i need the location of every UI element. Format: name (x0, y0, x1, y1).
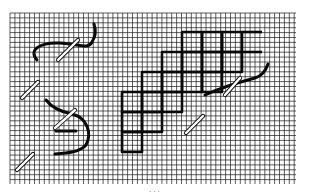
canvas-grid (10, 13, 296, 184)
thread-left-middle (46, 100, 89, 154)
stitch-square (182, 72, 202, 92)
caption-fragment: · · · (0, 188, 309, 196)
stitch-block (122, 32, 262, 152)
stitch-diagram (0, 0, 309, 196)
stitch-square (202, 32, 222, 52)
stitch-square (122, 112, 142, 132)
stitch-square (122, 92, 142, 112)
stitch-square (122, 132, 142, 152)
stitch-square (182, 32, 202, 52)
stitch-square (222, 32, 242, 52)
